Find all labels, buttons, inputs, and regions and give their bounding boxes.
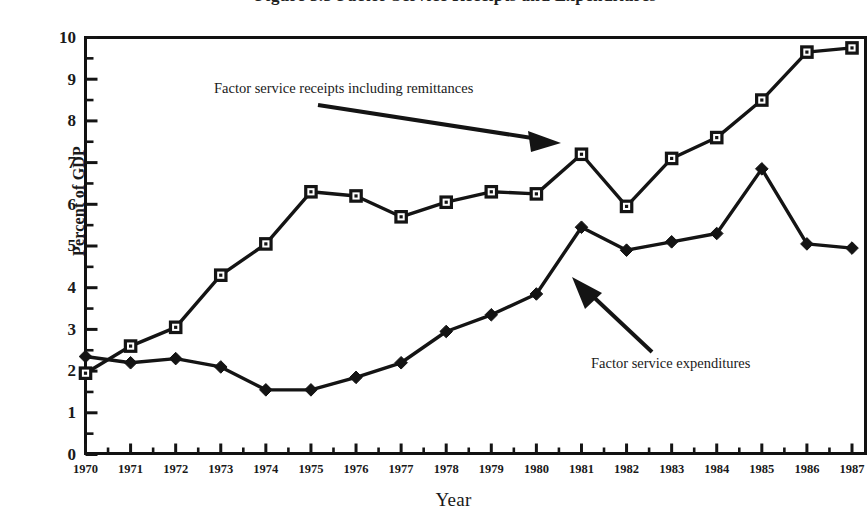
data-point-marker [305,384,318,397]
data-point-marker [846,242,859,255]
data-point-marker [214,361,227,374]
axis-ticks [86,38,853,455]
data-point-marker [169,352,182,365]
chart-page: { "figure": { "title_partial": "Figure 3… [0,0,867,522]
data-point-marker [79,350,92,363]
data-point-marker [260,384,273,397]
series-receipts [80,43,857,379]
arrow-to-expenditures [572,277,652,352]
data-point-marker [665,236,678,249]
data-series-group [79,43,858,396]
data-point-marker [620,244,633,257]
arrow-to-receipts [318,105,561,152]
data-point-marker [485,309,498,322]
data-point-marker [124,356,137,369]
chart-canvas [0,0,867,522]
data-point-marker [350,371,363,384]
